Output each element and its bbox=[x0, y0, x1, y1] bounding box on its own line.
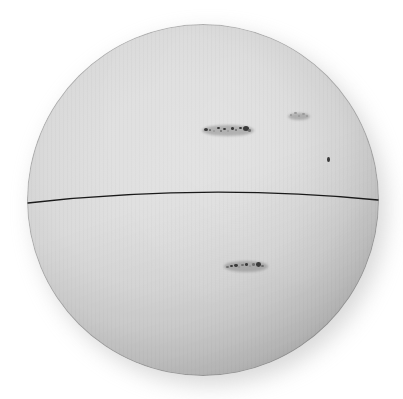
sunspot-umbra bbox=[217, 127, 220, 129]
sunspot-umbra bbox=[252, 263, 255, 266]
sunspot-umbra bbox=[248, 129, 251, 132]
sunspot-umbra bbox=[327, 157, 330, 162]
scan-striations bbox=[27, 24, 379, 376]
sunspot-umbra bbox=[306, 115, 308, 117]
halftone-texture bbox=[27, 24, 379, 376]
sunspot-umbra bbox=[298, 115, 300, 117]
sunspot-umbra bbox=[261, 265, 264, 267]
sunspot-umbra bbox=[294, 112, 297, 114]
sunspot-umbra bbox=[302, 113, 305, 115]
sunspot-umbra bbox=[230, 265, 233, 267]
sunspot-umbra bbox=[231, 127, 234, 130]
solar-disk bbox=[27, 24, 379, 376]
sunspot-isolated bbox=[327, 157, 331, 163]
limb-darkening-overlay bbox=[27, 24, 379, 376]
solar-limb-ring bbox=[27, 24, 379, 376]
sunspot-umbra bbox=[213, 130, 215, 132]
sunspot-group-south bbox=[226, 260, 266, 272]
sunspot-group-north bbox=[204, 124, 252, 136]
sunspot-umbra bbox=[204, 128, 208, 131]
solar-photograph-plate bbox=[0, 0, 403, 399]
sunspot-faint-cluster bbox=[290, 112, 308, 120]
sunspot-umbra bbox=[220, 130, 222, 132]
